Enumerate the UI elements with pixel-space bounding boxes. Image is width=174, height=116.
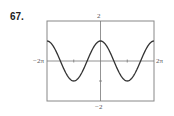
x-min-label: −2π [33,58,44,65]
x-max-label: 2π [156,58,163,65]
y-min-label: −2 [95,104,102,111]
cosine-graph [0,0,174,116]
y-max-label: 2 [97,13,101,20]
